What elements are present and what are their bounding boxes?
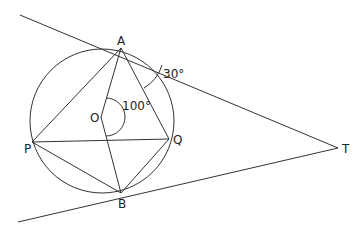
segment-OB bbox=[101, 117, 121, 193]
label-A: A bbox=[117, 34, 126, 48]
label-P: P bbox=[24, 142, 31, 156]
geometry-diagram: A B P Q O T 100° 30° bbox=[0, 0, 358, 232]
tangent-line-B bbox=[18, 148, 338, 222]
label-Q: Q bbox=[173, 133, 182, 147]
label-T: T bbox=[341, 142, 350, 156]
segment-PQ bbox=[32, 139, 169, 142]
angle-label-100: 100° bbox=[122, 99, 151, 113]
segment-BQ bbox=[121, 139, 169, 193]
angle-label-30: 30° bbox=[163, 67, 184, 81]
label-O: O bbox=[90, 111, 99, 125]
segment-PB bbox=[32, 142, 121, 193]
label-B: B bbox=[118, 197, 126, 211]
segment-AQ bbox=[121, 48, 169, 139]
tangent-line-A bbox=[20, 15, 338, 148]
